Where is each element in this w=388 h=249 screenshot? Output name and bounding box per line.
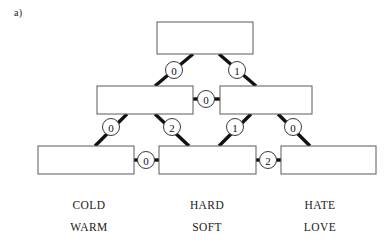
edge-label-mid-left-to-leaf-left: 0 bbox=[103, 119, 120, 136]
leaf-label-text: SOFT bbox=[192, 221, 222, 233]
edge-label-mid-right-to-leaf-right: 0 bbox=[285, 119, 302, 136]
edge-label-root-to-mid-right: 1 bbox=[229, 62, 246, 79]
edge-label-text: 0 bbox=[171, 65, 177, 77]
edge-label-root-to-mid-left: 0 bbox=[166, 62, 183, 79]
edge-label-text: 1 bbox=[234, 65, 240, 77]
edge-label-mid-right-to-leaf-center: 1 bbox=[227, 119, 244, 136]
leaf-label-text: COLD bbox=[73, 199, 106, 211]
edge-label-leaf-center-to-leaf-right: 2 bbox=[260, 152, 277, 169]
leaf-label-text: HATE bbox=[305, 199, 336, 211]
edge-label-text: 0 bbox=[143, 155, 149, 167]
node-leaf-left[interactable] bbox=[38, 146, 134, 174]
node-root[interactable] bbox=[157, 22, 253, 54]
leaf-label-text: LOVE bbox=[304, 221, 336, 233]
edge-label-leaf-left-to-leaf-center: 0 bbox=[138, 152, 155, 169]
node-leaf-right[interactable] bbox=[281, 146, 376, 174]
edge-label-text: 1 bbox=[232, 122, 238, 134]
node-leaf-center[interactable] bbox=[159, 146, 256, 174]
leaf-label-text: HARD bbox=[190, 199, 224, 211]
leaf-labels-layer: COLDWARMHARDSOFTHATELOVE bbox=[70, 199, 336, 233]
leaf-label-text: WARM bbox=[70, 221, 107, 233]
edge-label-text: 0 bbox=[290, 122, 296, 134]
edge-label-mid-left-to-leaf-center: 2 bbox=[164, 119, 181, 136]
node-mid-left[interactable] bbox=[97, 86, 193, 114]
node-mid-right[interactable] bbox=[220, 86, 312, 114]
edge-label-text: 2 bbox=[265, 155, 271, 167]
tree-diagram: 010021002 COLDWARMHARDSOFTHATELOVE bbox=[0, 0, 388, 249]
edge-label-text: 0 bbox=[108, 122, 114, 134]
edge-label-text: 2 bbox=[169, 122, 175, 134]
edge-label-mid-left-to-mid-right: 0 bbox=[198, 91, 215, 108]
edge-label-text: 0 bbox=[203, 94, 209, 106]
diagram-page: a) 010021002 COLDWARMHARDSOFTHATELOVE bbox=[0, 0, 388, 249]
